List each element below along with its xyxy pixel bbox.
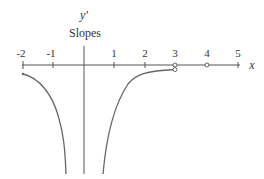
x-axis-label: x <box>248 58 255 72</box>
left-branch-curve <box>23 74 66 174</box>
open-circle-marker <box>173 68 177 72</box>
right-branch-curve <box>103 70 175 175</box>
x-tick-label: -1 <box>46 47 55 59</box>
x-tick-label: 5 <box>235 47 241 59</box>
open-circle-marker <box>205 63 209 67</box>
y-axis-label: y' <box>79 8 88 22</box>
open-circle-marker <box>173 63 177 67</box>
left-branch-start-point <box>22 73 25 76</box>
x-tick-label: 4 <box>204 47 210 59</box>
chart-title: Slopes <box>69 26 101 40</box>
x-tick-label: 1 <box>111 47 117 59</box>
x-tick-label: -2 <box>16 47 25 59</box>
x-tick-label: 3 <box>172 47 178 59</box>
slopes-chart: y' Slopes -2 -1 1 2 3 4 5 x <box>0 0 264 179</box>
x-tick-label: 2 <box>142 47 148 59</box>
